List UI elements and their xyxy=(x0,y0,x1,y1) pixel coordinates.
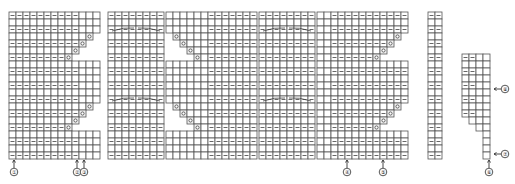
stitch-cell xyxy=(380,33,387,40)
stitch-cell xyxy=(201,124,208,131)
stitch-cell xyxy=(72,89,79,96)
stitch-cell xyxy=(58,75,65,82)
stitch-cell xyxy=(301,117,308,124)
stitch-cell xyxy=(157,131,164,138)
stitch-cell xyxy=(401,19,408,26)
stitch-cell xyxy=(201,117,208,124)
stitch-cell xyxy=(317,12,324,19)
stitch-cell xyxy=(476,124,483,131)
stitch-cell xyxy=(187,152,194,159)
stitch-cell xyxy=(352,33,359,40)
stitch-cell xyxy=(65,103,72,110)
chart-panel-3 xyxy=(166,12,257,159)
stitch-cell xyxy=(331,103,338,110)
stitch-cell xyxy=(428,19,435,26)
yarn-over-icon xyxy=(88,35,91,38)
yarn-over-icon xyxy=(67,56,70,59)
stitch-cell xyxy=(280,19,287,26)
stitch-cell xyxy=(428,75,435,82)
stitch-cell xyxy=(86,152,93,159)
stitch-cell xyxy=(229,145,236,152)
stitch-cell xyxy=(373,145,380,152)
stitch-cell xyxy=(222,117,229,124)
stitch-cell xyxy=(201,82,208,89)
stitch-cell xyxy=(79,26,86,33)
stitch-cell xyxy=(401,61,408,68)
stitch-cell xyxy=(394,145,401,152)
yarn-over-icon xyxy=(382,119,385,122)
stitch-cell xyxy=(208,131,215,138)
stitch-cell xyxy=(180,61,187,68)
stitch-cell xyxy=(243,75,250,82)
stitch-cell xyxy=(483,117,490,124)
chart-panel-1 xyxy=(9,12,100,159)
stitch-cell xyxy=(317,54,324,61)
stitch-cell xyxy=(331,145,338,152)
stitch-cell xyxy=(115,75,122,82)
stitch-cell xyxy=(236,117,243,124)
stitch-cell xyxy=(150,19,157,26)
stitch-cell xyxy=(266,131,273,138)
stitch-cell xyxy=(324,33,331,40)
stitch-cell xyxy=(222,33,229,40)
yarn-over-icon xyxy=(389,112,392,115)
stitch-cell xyxy=(173,12,180,19)
stitch-cell xyxy=(16,131,23,138)
stitch-cell xyxy=(173,138,180,145)
stitch-cell xyxy=(122,103,129,110)
stitch-cell xyxy=(93,12,100,19)
stitch-cell xyxy=(259,61,266,68)
stitch-cell xyxy=(229,47,236,54)
stitch-cell xyxy=(483,145,490,152)
stitch-cell xyxy=(366,75,373,82)
stitch-cell xyxy=(157,145,164,152)
stitch-cell xyxy=(187,33,194,40)
stitch-cell xyxy=(51,117,58,124)
stitch-cell xyxy=(136,33,143,40)
stitch-cell xyxy=(338,33,345,40)
stitch-cell xyxy=(9,61,16,68)
stitch-cell xyxy=(44,89,51,96)
stitch-cell xyxy=(373,75,380,82)
stitch-cell xyxy=(187,68,194,75)
stitch-cell xyxy=(287,75,294,82)
stitch-cell xyxy=(30,89,37,96)
stitch-cell xyxy=(44,145,51,152)
stitch-cell xyxy=(308,19,315,26)
stitch-cell xyxy=(16,117,23,124)
stitch-cell xyxy=(229,131,236,138)
stitch-cell xyxy=(72,19,79,26)
stitch-cell xyxy=(483,110,490,117)
stitch-cell xyxy=(23,131,30,138)
stitch-cell xyxy=(65,131,72,138)
yarn-over-icon xyxy=(396,105,399,108)
stitch-cell xyxy=(194,117,201,124)
stitch-cell xyxy=(115,33,122,40)
stitch-cell xyxy=(86,26,93,33)
stitch-cell xyxy=(115,117,122,124)
stitch-cell xyxy=(373,33,380,40)
stitch-cell xyxy=(287,47,294,54)
stitch-cell xyxy=(157,61,164,68)
stitch-cell xyxy=(324,82,331,89)
stitch-cell xyxy=(51,131,58,138)
stitch-cell xyxy=(250,75,257,82)
stitch-cell xyxy=(180,26,187,33)
stitch-cell xyxy=(30,131,37,138)
stitch-cell xyxy=(79,75,86,82)
stitch-cell xyxy=(208,117,215,124)
stitch-cell xyxy=(30,47,37,54)
stitch-cell xyxy=(129,47,136,54)
stitch-cell xyxy=(359,75,366,82)
stitch-cell xyxy=(273,89,280,96)
stitch-cell xyxy=(143,19,150,26)
stitch-cell xyxy=(173,82,180,89)
stitch-cell xyxy=(324,138,331,145)
stitch-cell xyxy=(359,89,366,96)
stitch-cell xyxy=(201,75,208,82)
stitch-cell xyxy=(108,131,115,138)
stitch-cell xyxy=(229,89,236,96)
stitch-cell xyxy=(173,19,180,26)
stitch-cell xyxy=(187,61,194,68)
stitch-cell xyxy=(65,19,72,26)
